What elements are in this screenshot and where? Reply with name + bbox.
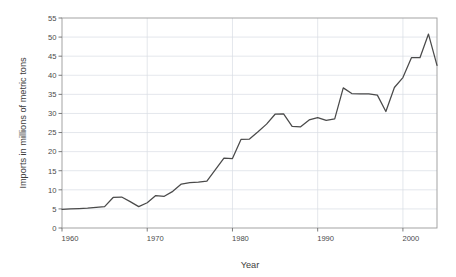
x-axis-ticks-group <box>62 228 403 232</box>
data-line-imports <box>62 34 437 209</box>
y-axis-tick-labels-group: 0510152025303540455055 <box>48 14 56 233</box>
gridlines-group <box>62 18 437 228</box>
y-tick-label: 15 <box>48 167 56 176</box>
x-tick-label: 1990 <box>317 234 334 243</box>
y-tick-label: 50 <box>48 33 56 42</box>
y-tick-label: 30 <box>48 109 56 118</box>
y-tick-label: 40 <box>48 71 56 80</box>
chart-container: 0510152025303540455055 19601970198019902… <box>0 0 456 277</box>
y-tick-label: 45 <box>48 52 56 61</box>
y-tick-label: 25 <box>48 128 56 137</box>
x-tick-label: 1960 <box>62 234 79 243</box>
y-tick-label: 5 <box>52 205 56 214</box>
x-axis-title: Year <box>241 260 260 270</box>
line-chart: 0510152025303540455055 19601970198019902… <box>0 0 456 277</box>
data-series-group <box>62 34 437 209</box>
x-tick-label: 1980 <box>232 234 249 243</box>
plot-frame-group <box>62 18 437 228</box>
x-tick-label: 2000 <box>402 234 419 243</box>
y-tick-label: 10 <box>48 186 56 195</box>
y-tick-label: 0 <box>52 224 56 233</box>
plot-area-border <box>62 18 437 228</box>
x-tick-label: 1970 <box>147 234 164 243</box>
x-axis-tick-labels-group: 19601970198019902000 <box>62 234 420 243</box>
y-tick-label: 35 <box>48 90 56 99</box>
y-axis-ticks-group <box>59 18 63 228</box>
y-tick-label: 20 <box>48 147 56 156</box>
y-axis-title: Imports in millions of metric tons <box>18 57 28 189</box>
y-tick-label: 55 <box>48 14 56 23</box>
